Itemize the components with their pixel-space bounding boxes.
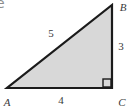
side-label-horizontal-leg: 4 — [58, 94, 64, 106]
side-label-vertical-leg: 3 — [118, 40, 124, 52]
vertex-label-b: B — [120, 1, 127, 13]
figure-canvas: e A B C 5 3 4 — [0, 0, 131, 109]
right-triangle-figure: A B C 5 3 4 — [0, 0, 131, 109]
side-label-hypotenuse: 5 — [48, 27, 54, 39]
triangle-shape — [7, 5, 112, 88]
vertex-label-c: C — [118, 96, 126, 108]
vertex-label-a: A — [3, 96, 11, 108]
